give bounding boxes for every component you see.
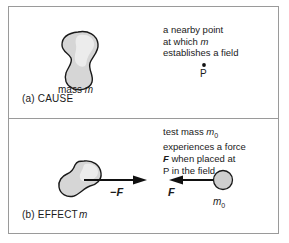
minus-f-label: −F — [110, 186, 123, 198]
cause-note-line-2: at which m — [163, 36, 239, 48]
cause-note-text: a nearby point at which m establishes a … — [163, 24, 239, 59]
point-p-label: P — [200, 68, 207, 79]
effect-note-line-2: experiences a force — [163, 141, 246, 153]
physics-figure-gravitational-field: a nearby point at which m establishes a … — [0, 0, 289, 243]
effect-note-line-1: test mass m0 — [163, 126, 246, 141]
effect-caption: (b) EFFECT — [22, 209, 78, 220]
f-label: F — [168, 186, 175, 198]
cause-caption: (a) CAUSE — [22, 93, 73, 104]
point-p-dot — [202, 63, 206, 67]
cause-note-line-1: a nearby point — [163, 24, 239, 36]
mass-blob-cause — [62, 32, 98, 90]
source-mass-label: m — [79, 209, 87, 220]
test-mass-label: m0 — [213, 196, 225, 209]
effect-note-text: test mass m0 experiences a force F when … — [163, 126, 246, 176]
cause-note-line-3: establishes a field — [163, 47, 239, 59]
effect-note-line-3: F when placed at — [163, 153, 246, 165]
effect-note-line-4: P in the field — [163, 165, 246, 177]
